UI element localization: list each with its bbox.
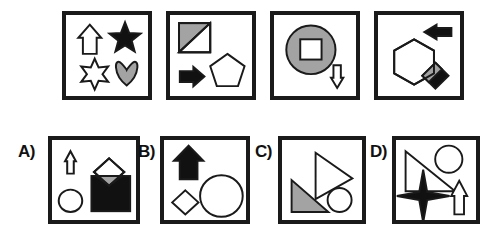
five-point-star-shape [109,22,140,51]
diamond-shape [172,190,198,214]
up-arrow-shape [78,25,101,54]
pentagon-shape [210,54,244,86]
answer-option-a[interactable] [48,136,140,224]
answer-option-c[interactable] [278,136,366,224]
square-shape [300,39,321,59]
right-arrow-shape [180,67,205,86]
circle-shape [328,188,352,212]
prompt-panel-1 [62,11,152,100]
shape-group [286,26,343,88]
panel-graphic [52,140,136,220]
prompt-panel-3 [270,11,360,100]
answer-option-b[interactable] [160,136,250,224]
prompt-panel-4 [374,11,464,100]
shape-group [179,23,245,86]
circle-shape [200,175,243,217]
panel-graphic [282,140,362,220]
up-arrow-shape [451,181,467,215]
puzzle-canvas: A)B)C)D) [0,0,491,241]
answer-option-label-c: C) [255,143,272,160]
shape-group [59,151,130,212]
panel-graphic [164,140,246,220]
shape-group [397,146,467,220]
up-arrow-shape [174,146,204,180]
down-arrow-shape [331,65,343,88]
six-point-star-shape [81,59,108,90]
answer-option-d[interactable] [392,136,480,224]
shape-group [292,153,353,212]
panel-graphic [378,15,460,96]
answer-option-label-d: D) [370,143,387,160]
thin-up-arrow-shape [65,151,76,173]
panel-graphic [396,140,476,220]
panel-graphic [66,15,148,96]
panel-graphic [274,15,356,96]
answer-option-label-a: A) [18,143,35,160]
circle-shape [435,146,462,173]
shape-group [172,146,243,217]
circle-shape [59,190,83,212]
left-arrow-shape [424,25,451,40]
shape-group [78,22,140,89]
panel-graphic [170,15,252,96]
prompt-panel-2 [166,11,256,100]
heart-shape [116,62,138,86]
shape-group [394,25,451,89]
answer-option-label-b: B) [138,143,155,160]
